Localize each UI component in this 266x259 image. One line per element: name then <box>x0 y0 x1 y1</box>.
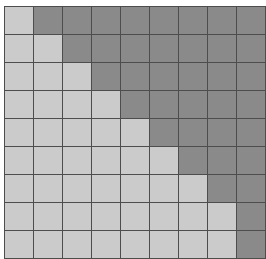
grid-cell-r5-c4 <box>92 119 120 146</box>
grid-cell-r3-c6 <box>150 63 178 90</box>
grid-cell-r3-c2 <box>34 63 62 90</box>
grid-cell-r7-c3 <box>63 175 91 202</box>
grid-cell-r1-c1 <box>5 7 33 34</box>
grid-cell-r7-c4 <box>92 175 120 202</box>
grid-cell-r5-c5 <box>121 119 149 146</box>
grid-cell-r1-c8 <box>208 7 236 34</box>
grid-cell-r7-c8 <box>208 175 236 202</box>
grid-cell-r8-c2 <box>34 203 62 230</box>
grid-cell-r9-c7 <box>179 231 207 258</box>
grid-cell-r9-c8 <box>208 231 236 258</box>
grid-cell-r2-c5 <box>121 35 149 62</box>
grid-cell-r3-c4 <box>92 63 120 90</box>
grid-cell-r9-c2 <box>34 231 62 258</box>
grid-cell-r4-c6 <box>150 91 178 118</box>
grid-cell-r1-c2 <box>34 7 62 34</box>
grid-cell-r7-c6 <box>150 175 178 202</box>
grid-cell-r8-c1 <box>5 203 33 230</box>
grid-cell-r7-c5 <box>121 175 149 202</box>
grid-cell-r7-c1 <box>5 175 33 202</box>
grid-cell-r1-c6 <box>150 7 178 34</box>
grid-cell-r4-c7 <box>179 91 207 118</box>
grid-cell-r5-c1 <box>5 119 33 146</box>
grid-cell-r6-c1 <box>5 147 33 174</box>
grid-cell-r2-c2 <box>34 35 62 62</box>
grid-cell-r6-c4 <box>92 147 120 174</box>
matrix-grid <box>4 6 264 259</box>
grid-cell-r2-c1 <box>5 35 33 62</box>
grid-cell-r5-c3 <box>63 119 91 146</box>
grid-cell-r2-c3 <box>63 35 91 62</box>
grid-cell-r9-c9 <box>237 231 264 258</box>
grid-cell-r4-c4 <box>92 91 120 118</box>
grid-cell-r8-c5 <box>121 203 149 230</box>
grid-cell-r9-c4 <box>92 231 120 258</box>
grid-cell-r3-c1 <box>5 63 33 90</box>
grid-cell-r7-c2 <box>34 175 62 202</box>
grid-cell-r6-c7 <box>179 147 207 174</box>
grid-cell-r2-c9 <box>237 35 264 62</box>
grid-cell-r2-c6 <box>150 35 178 62</box>
grid-cell-r5-c2 <box>34 119 62 146</box>
grid-cell-r6-c3 <box>63 147 91 174</box>
grid-cell-r1-c9 <box>237 7 264 34</box>
grid-cell-r4-c5 <box>121 91 149 118</box>
grid-cell-r9-c3 <box>63 231 91 258</box>
grid-cell-r1-c3 <box>63 7 91 34</box>
grid-cell-r4-c9 <box>237 91 264 118</box>
grid-cell-r3-c5 <box>121 63 149 90</box>
grid-cell-r1-c7 <box>179 7 207 34</box>
grid-cell-r9-c5 <box>121 231 149 258</box>
grid-cell-r3-c8 <box>208 63 236 90</box>
grid-cell-r8-c7 <box>179 203 207 230</box>
grid-cell-r4-c2 <box>34 91 62 118</box>
grid-cell-r4-c8 <box>208 91 236 118</box>
grid-cell-r8-c6 <box>150 203 178 230</box>
grid-cell-r5-c6 <box>150 119 178 146</box>
grid-cell-r6-c9 <box>237 147 264 174</box>
grid-cell-r5-c7 <box>179 119 207 146</box>
grid-cell-r6-c8 <box>208 147 236 174</box>
grid-cell-r6-c5 <box>121 147 149 174</box>
grid-cell-r7-c9 <box>237 175 264 202</box>
grid-cell-r2-c7 <box>179 35 207 62</box>
grid-cell-r9-c6 <box>150 231 178 258</box>
grid-cell-r4-c3 <box>63 91 91 118</box>
grid-cell-r2-c4 <box>92 35 120 62</box>
grid-cell-r8-c8 <box>208 203 236 230</box>
grid-cell-r1-c4 <box>92 7 120 34</box>
grid-cell-r6-c2 <box>34 147 62 174</box>
grid-cell-r7-c7 <box>179 175 207 202</box>
grid-cell-r5-c8 <box>208 119 236 146</box>
triangular-grid-matrix-figure <box>0 0 264 259</box>
grid-cell-r3-c9 <box>237 63 264 90</box>
grid-cell-r1-c5 <box>121 7 149 34</box>
grid-cell-r9-c1 <box>5 231 33 258</box>
grid-cell-r3-c7 <box>179 63 207 90</box>
grid-cell-r5-c9 <box>237 119 264 146</box>
grid-cell-r4-c1 <box>5 91 33 118</box>
grid-cell-r2-c8 <box>208 35 236 62</box>
grid-cell-r8-c9 <box>237 203 264 230</box>
grid-cell-r8-c4 <box>92 203 120 230</box>
grid-cell-r8-c3 <box>63 203 91 230</box>
grid-cell-r3-c3 <box>63 63 91 90</box>
grid-cell-r6-c6 <box>150 147 178 174</box>
